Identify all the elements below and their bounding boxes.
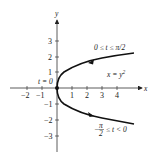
x-tick-label: 4	[115, 91, 119, 100]
y-tick-label: 3	[48, 37, 52, 46]
svg-text:2: 2	[99, 129, 103, 138]
y-tick-label: −3	[44, 132, 53, 141]
parametric-plot: x y −2 −1 1 2 3 4 3 2 1 −1 −2 −3 0 ≤ t ≤…	[0, 0, 154, 157]
upper-range-label: 0 ≤ t ≤ π/2	[94, 43, 125, 52]
y-axis-label: y	[54, 9, 59, 18]
x-tick-label: 1	[70, 91, 74, 100]
equation-label: x = y2	[106, 69, 125, 79]
curve-lower-branch	[57, 88, 134, 124]
x-tick-label: 2	[85, 91, 89, 100]
y-tick-label: −1	[44, 100, 53, 109]
y-tick-label: 2	[48, 53, 52, 62]
y-tick-label: 1	[48, 68, 52, 77]
svg-text:≤ t < 0: ≤ t < 0	[106, 125, 127, 134]
x-axis-label: x	[143, 84, 148, 93]
x-tick-label: 3	[100, 91, 104, 100]
lower-range-label: − π 2 ≤ t < 0	[94, 121, 127, 138]
t-zero-label: t = 0	[38, 77, 53, 86]
x-tick-label: −1	[36, 91, 45, 100]
y-tick-label: −2	[44, 116, 53, 125]
x-tick-label: −2	[21, 91, 30, 100]
origin-point	[55, 86, 59, 90]
